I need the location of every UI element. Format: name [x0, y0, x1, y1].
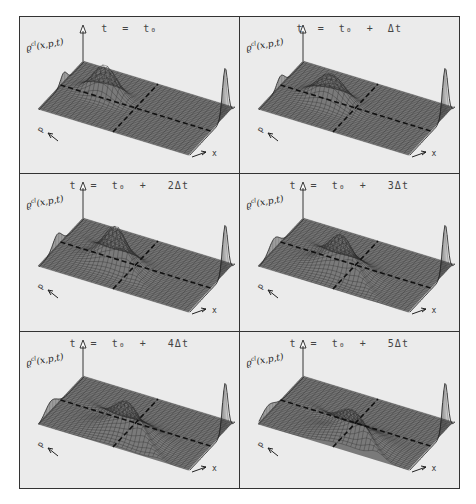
surface-plot-panel-2: t = t₀ + 2Δt ϱcl(x,p,t) p x — [20, 174, 240, 332]
x-axis-label: x — [432, 464, 437, 473]
surface-plot-panel-0: t = t₀ ϱcl(x,p,t) p x — [20, 17, 240, 174]
surface-plot-panel-4: t = t₀ + 4Δt ϱcl(x,p,t) p x — [20, 332, 240, 488]
panel-title: t = t₀ + 4Δt — [20, 338, 239, 349]
x-axis-label: x — [212, 464, 217, 473]
panel-title: t = t₀ — [20, 23, 239, 34]
surface-plot-panel-5: t = t₀ + 5Δt ϱcl(x,p,t) p x — [240, 332, 460, 488]
surface-plot-panel-3: t = t₀ + 3Δt ϱcl(x,p,t) p x — [240, 174, 460, 332]
x-axis-label: x — [212, 306, 217, 315]
figure-grid: t = t₀ ϱcl(x,p,t) p x t = t₀ + Δt ϱcl(x,… — [19, 16, 460, 489]
x-axis-label: x — [432, 149, 437, 158]
panel-title: t = t₀ + 5Δt — [240, 338, 460, 349]
panel-title: t = t₀ + 2Δt — [20, 180, 239, 191]
x-axis-label: x — [212, 149, 217, 158]
surface-plot-panel-1: t = t₀ + Δt ϱcl(x,p,t) p x — [240, 17, 460, 174]
panel-title: t = t₀ + Δt — [240, 23, 460, 34]
panel-title: t = t₀ + 3Δt — [240, 180, 460, 191]
x-axis-label: x — [432, 306, 437, 315]
